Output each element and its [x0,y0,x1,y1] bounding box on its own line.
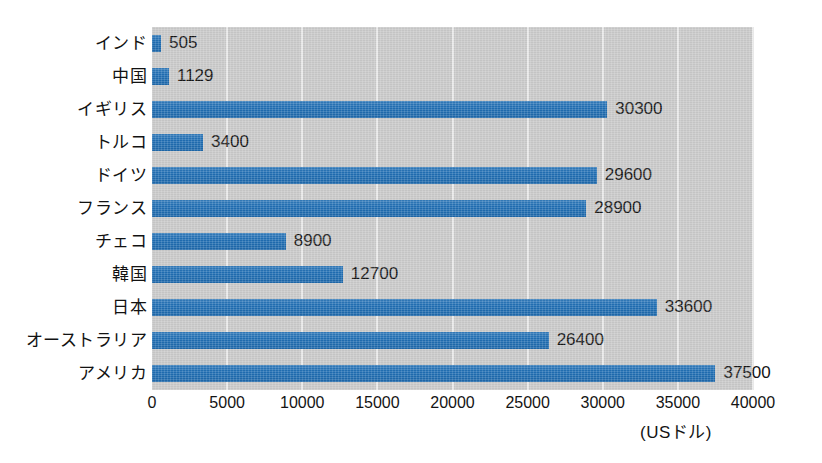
bar [152,134,203,151]
bar-value-label: 12700 [351,263,398,285]
category-label: 韓国 [0,258,147,291]
bar-sheen [152,365,715,382]
x-tick-label: 40000 [731,392,776,414]
bar [152,233,286,250]
category-label: トルコ [0,126,147,159]
bar-value-label: 26400 [557,329,604,351]
bar-row: 28900 [152,192,753,225]
bar-sheen [152,299,657,316]
category-label: 中国 [0,60,147,93]
x-tick-label: 30000 [581,392,626,414]
bar-row: 37500 [152,357,753,390]
bar-row: 33600 [152,291,753,324]
plot-area: 5051129303003400296002890089001270033600… [152,27,753,390]
bar [152,365,715,382]
bar-chart: 5051129303003400296002890089001270033600… [0,0,822,463]
bar-sheen [152,266,343,283]
bar-sheen [152,68,169,85]
category-label: 日本 [0,291,147,324]
x-tick-label: 20000 [430,392,475,414]
category-label: チェコ [0,225,147,258]
bar-row: 1129 [152,60,753,93]
category-label: アメリカ [0,357,147,390]
category-label: イギリス [0,93,147,126]
x-tick-label: 15000 [355,392,400,414]
bar-value-label: 8900 [294,230,332,252]
category-axis: インド中国イギリストルコドイツフランスチェコ韓国日本オーストラリアアメリカ [0,27,147,390]
bar-row: 3400 [152,126,753,159]
x-tick-label: 0 [148,392,157,414]
bar-row: 12700 [152,258,753,291]
bar [152,68,169,85]
x-axis: 0500010000150002000025000300003500040000 [152,392,753,418]
x-axis-unit-label: (USドル) [640,418,712,443]
x-tick-label: 5000 [209,392,245,414]
bar-value-label: 37500 [723,362,770,384]
bar-sheen [152,101,607,118]
bar [152,332,549,349]
bar-row: 26400 [152,324,753,357]
bar-value-label: 1129 [177,65,214,87]
bar-sheen [152,35,161,52]
bar-value-label: 3400 [211,131,249,153]
category-label: オーストラリア [0,324,147,357]
bar [152,299,657,316]
bar [152,167,597,184]
bar [152,266,343,283]
bar-sheen [152,200,586,217]
bar [152,35,161,52]
x-tick-label: 25000 [505,392,550,414]
category-label: インド [0,27,147,60]
bar-sheen [152,233,286,250]
bar [152,200,586,217]
category-label: ドイツ [0,159,147,192]
bar [152,101,607,118]
bar-sheen [152,332,549,349]
bar-row: 29600 [152,159,753,192]
x-tick-label: 35000 [656,392,701,414]
bar-value-label: 29600 [605,164,652,186]
bar-value-label: 33600 [665,296,712,318]
bar-row: 8900 [152,225,753,258]
bar-row: 30300 [152,93,753,126]
category-label: フランス [0,192,147,225]
x-tick-label: 10000 [280,392,325,414]
bar-value-label: 505 [169,32,197,54]
bar-value-label: 30300 [615,98,662,120]
bar-sheen [152,167,597,184]
bar-row: 505 [152,27,753,60]
bar-value-label: 28900 [594,197,641,219]
bar-sheen [152,134,203,151]
